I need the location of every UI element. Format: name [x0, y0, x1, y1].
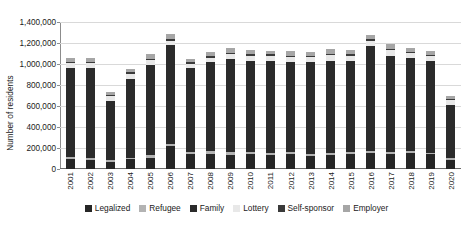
- x-axis-label-cell: 2014: [321, 171, 341, 201]
- x-axis-tick-label: 2009: [226, 172, 235, 190]
- legend-item-lottery[interactable]: Lottery: [233, 203, 268, 213]
- bar-column: [281, 22, 301, 169]
- legend-swatch-icon: [343, 205, 350, 212]
- bar-column: [240, 22, 260, 169]
- y-axis-tick-label: 200,000: [26, 144, 56, 153]
- stacked-bar: [366, 35, 375, 169]
- legend-label: Legalized: [95, 203, 131, 213]
- x-axis-tick-label: 2010: [246, 172, 255, 190]
- bar-column: [60, 22, 80, 169]
- bar-segment-legalized: [206, 154, 215, 169]
- y-axis-tick-mark: [57, 169, 60, 170]
- bar-segment-legalized: [446, 160, 455, 169]
- bar-column: [120, 22, 140, 169]
- x-axis-label-cell: 2017: [381, 171, 401, 201]
- x-axis-tick-label: 2018: [406, 172, 415, 190]
- bar-segment-family: [286, 62, 295, 151]
- stacked-bar-chart: Number of residents 0200,000400,000600,0…: [0, 0, 473, 225]
- bar-segment-family: [266, 61, 275, 153]
- bar-series-container: [60, 22, 461, 169]
- stacked-bar: [146, 54, 155, 169]
- legend-swatch-icon: [139, 205, 146, 212]
- x-axis-tick-label: 2013: [306, 172, 315, 190]
- legend-item-family[interactable]: Family: [190, 203, 224, 213]
- stacked-bar: [126, 69, 135, 169]
- stacked-bar: [246, 50, 255, 169]
- stacked-bar: [326, 49, 335, 169]
- bar-segment-family: [386, 56, 395, 152]
- bar-segment-legalized: [366, 153, 375, 169]
- x-axis-tick-label: 2016: [366, 172, 375, 190]
- x-axis-label-cell: 2005: [140, 171, 160, 201]
- bar-column: [421, 22, 441, 169]
- stacked-bar: [106, 92, 115, 169]
- bar-segment-family: [126, 79, 135, 158]
- stacked-bar: [226, 48, 235, 169]
- x-axis-tick-label: 2001: [66, 172, 75, 190]
- bar-segment-family: [246, 61, 255, 152]
- x-axis-tick-label: 2014: [326, 172, 335, 190]
- legend-label: Lottery: [243, 203, 268, 213]
- x-axis-label-cell: 2010: [240, 171, 260, 201]
- bar-column: [100, 22, 120, 169]
- stacked-bar: [386, 44, 395, 169]
- x-axis-label-cell: 2013: [301, 171, 321, 201]
- legend-swatch-icon: [278, 205, 285, 212]
- y-axis-tick-label: 600,000: [26, 102, 56, 111]
- legend-label: Employer: [353, 203, 388, 213]
- bar-segment-legalized: [126, 159, 135, 169]
- bar-segment-legalized: [246, 154, 255, 169]
- y-axis-title: Number of residents: [6, 54, 20, 172]
- stacked-bar: [346, 50, 355, 169]
- bar-segment-legalized: [186, 154, 195, 169]
- x-axis-label-cell: 2002: [80, 171, 100, 201]
- x-axis-label-cell: 2004: [120, 171, 140, 201]
- stacked-bar: [406, 48, 415, 169]
- y-axis-tick-label: 0: [51, 165, 56, 174]
- legend-item-legalized[interactable]: Legalized: [85, 203, 131, 213]
- x-axis-tick-label: 2005: [146, 172, 155, 190]
- bar-segment-legalized: [286, 154, 295, 169]
- x-axis-tick-label: 2020: [446, 172, 455, 190]
- stacked-bar: [86, 58, 95, 169]
- x-axis-label-cell: 2012: [281, 171, 301, 201]
- bar-column: [200, 22, 220, 169]
- bar-segment-family: [326, 61, 335, 153]
- bar-column: [341, 22, 361, 169]
- bar-segment-family: [346, 61, 355, 152]
- x-axis-labels: 2001200220032004200520062007200820092010…: [60, 171, 461, 201]
- x-axis-label-cell: 2018: [401, 171, 421, 201]
- x-axis-tick-label: 2006: [166, 172, 175, 190]
- legend-item-employer[interactable]: Employer: [343, 203, 388, 213]
- bar-segment-legalized: [326, 155, 335, 169]
- bar-column: [301, 22, 321, 169]
- stacked-bar: [266, 51, 275, 169]
- bar-segment-legalized: [426, 154, 435, 169]
- legend-swatch-icon: [190, 205, 197, 212]
- legend-item-refugee[interactable]: Refugee: [139, 203, 180, 213]
- bar-column: [381, 22, 401, 169]
- y-axis-tick-label: 1,200,000: [20, 39, 56, 48]
- x-axis-label-cell: 2016: [361, 171, 381, 201]
- x-axis-label-cell: 2003: [100, 171, 120, 201]
- legend-swatch-icon: [85, 205, 92, 212]
- bar-segment-legalized: [346, 154, 355, 169]
- bar-column: [80, 22, 100, 169]
- legend-item-self-sponsor[interactable]: Self-sponsor: [278, 203, 335, 213]
- stacked-bar: [446, 96, 455, 169]
- x-axis-tick-label: 2008: [206, 172, 215, 190]
- bar-segment-legalized: [226, 155, 235, 169]
- stacked-bar: [166, 34, 175, 169]
- bar-segment-legalized: [406, 153, 415, 169]
- bar-column: [220, 22, 240, 169]
- x-axis-tick-label: 2007: [186, 172, 195, 190]
- bar-segment-legalized: [386, 154, 395, 169]
- bar-segment-family: [186, 68, 195, 152]
- x-axis-label-cell: 2001: [60, 171, 80, 201]
- legend-label: Family: [200, 203, 224, 213]
- bar-column: [321, 22, 341, 169]
- x-axis-tick-label: 2004: [126, 172, 135, 190]
- bar-column: [260, 22, 280, 169]
- bar-column: [160, 22, 180, 169]
- bar-segment-legalized: [146, 158, 155, 169]
